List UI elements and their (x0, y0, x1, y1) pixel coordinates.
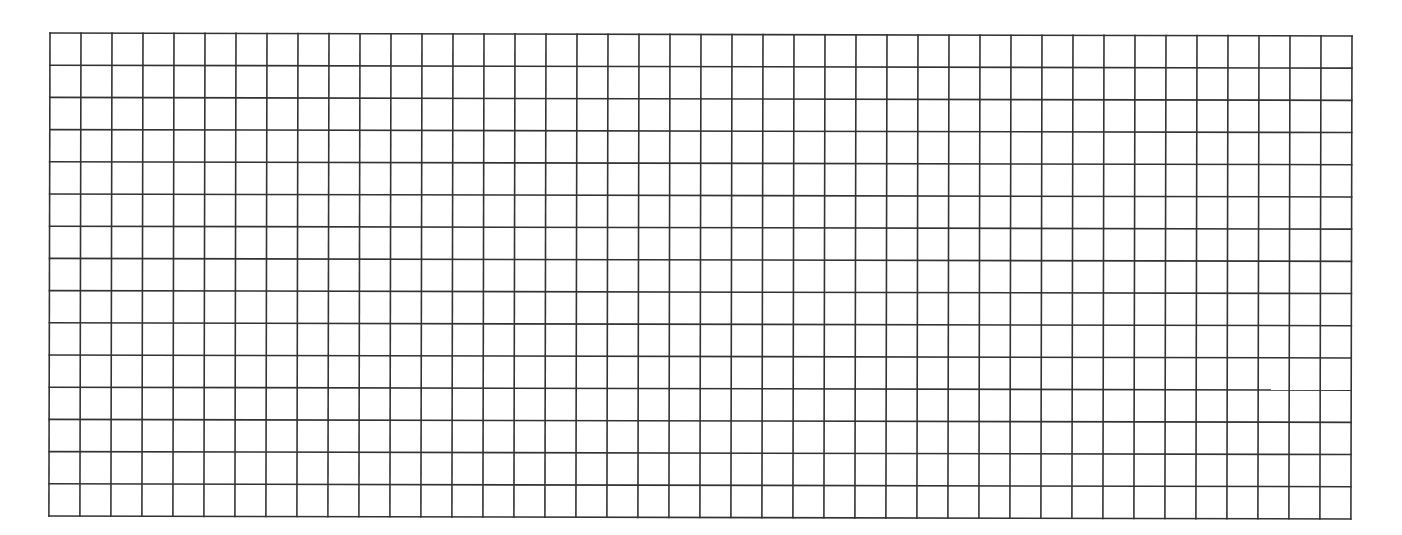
grid-vertical-line (1227, 36, 1228, 519)
grid-vertical-line (421, 34, 422, 517)
grid-vertical-line (483, 34, 484, 517)
grid-vertical-line (1320, 36, 1321, 519)
grid-vertical-line (1010, 35, 1011, 518)
grid-vertical-line (700, 34, 701, 517)
grid-vertical-line (1134, 35, 1135, 518)
grid-vertical-line (1041, 35, 1042, 518)
grid-vertical-line (669, 34, 670, 517)
grid-vertical-line (948, 35, 949, 518)
grid-vertical-line (1289, 36, 1290, 519)
grid-vertical-line (545, 34, 546, 517)
blank-grid-page (0, 0, 1402, 535)
grid-vertical-line (1351, 36, 1352, 519)
grid-vertical-line (917, 35, 918, 518)
grid-vertical-line (824, 35, 825, 518)
grid-vertical-line (607, 34, 608, 517)
grid-vertical-line (793, 35, 794, 518)
grid-vertical-line (111, 33, 112, 516)
grid-vertical-line (576, 34, 577, 517)
grid-vertical-line (1165, 36, 1166, 519)
grid-vertical-line (80, 33, 81, 516)
grid-vertical-line (49, 33, 50, 516)
grid-vertical-line (297, 34, 298, 517)
grid-vertical-line (1072, 35, 1073, 518)
grid-vertical-line (1103, 35, 1104, 518)
grid-vertical-line (1196, 36, 1197, 519)
grid-vertical-line (266, 33, 267, 516)
grid-vertical-line (452, 34, 453, 517)
grid-vertical-line (359, 34, 360, 517)
grid-lines (49, 33, 1352, 519)
grid-vertical-line (390, 34, 391, 517)
grid-table (49, 33, 1352, 519)
grid-vertical-line (638, 34, 639, 517)
grid-vertical-line (855, 35, 856, 518)
grid-vertical-line (204, 33, 205, 516)
grid-vertical-line (1258, 36, 1259, 519)
grid-vertical-line (886, 35, 887, 518)
grid-vertical-line (328, 34, 329, 517)
grid-vertical-line (762, 35, 763, 518)
grid-vertical-line (731, 35, 732, 518)
grid-vertical-line (142, 33, 143, 516)
grid-vertical-line (173, 33, 174, 516)
grid-vertical-line (979, 35, 980, 518)
grid-vertical-line (514, 34, 515, 517)
grid-vertical-line (235, 33, 236, 516)
